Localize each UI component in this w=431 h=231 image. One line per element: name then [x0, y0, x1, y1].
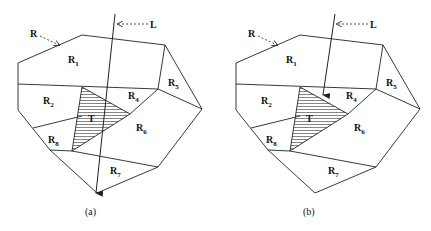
caption-b: (b): [303, 206, 315, 218]
label-r7: R7: [110, 165, 121, 179]
label-t: T: [88, 113, 95, 124]
triangle-t: [290, 87, 348, 151]
label-r2: R2: [43, 95, 54, 109]
label-r4: R4: [128, 90, 139, 104]
label-r1: R1: [286, 54, 297, 68]
label-r1: R1: [68, 54, 79, 68]
caption-a: (a): [85, 206, 96, 218]
label-r2: R2: [261, 95, 272, 109]
panel-b: L R R1 R2 R4 R5 R6 R7 R8 T (b): [236, 14, 420, 218]
diagram-canvas: L R R1 R2 R4 R5 R6 R7 R8 T (a) L R: [0, 0, 431, 231]
label-r5: R5: [386, 77, 397, 91]
label-r6: R6: [136, 122, 147, 136]
label-r: R: [30, 28, 38, 39]
label-r8: R8: [48, 134, 59, 148]
label-r4: R4: [346, 90, 357, 104]
label-r5: R5: [168, 77, 179, 91]
r-pointer: [40, 36, 59, 45]
label-r6: R6: [354, 122, 365, 136]
label-r7: R7: [328, 165, 339, 179]
label-r8: R8: [266, 134, 277, 148]
panel-a: L R R1 R2 R4 R5 R6 R7 R8 T (a): [18, 14, 202, 218]
ray-l: [323, 14, 335, 95]
label-r: R: [248, 28, 256, 39]
label-l: L: [150, 19, 157, 30]
label-l: L: [370, 19, 377, 30]
label-t: T: [306, 113, 313, 124]
r-pointer: [258, 36, 277, 45]
